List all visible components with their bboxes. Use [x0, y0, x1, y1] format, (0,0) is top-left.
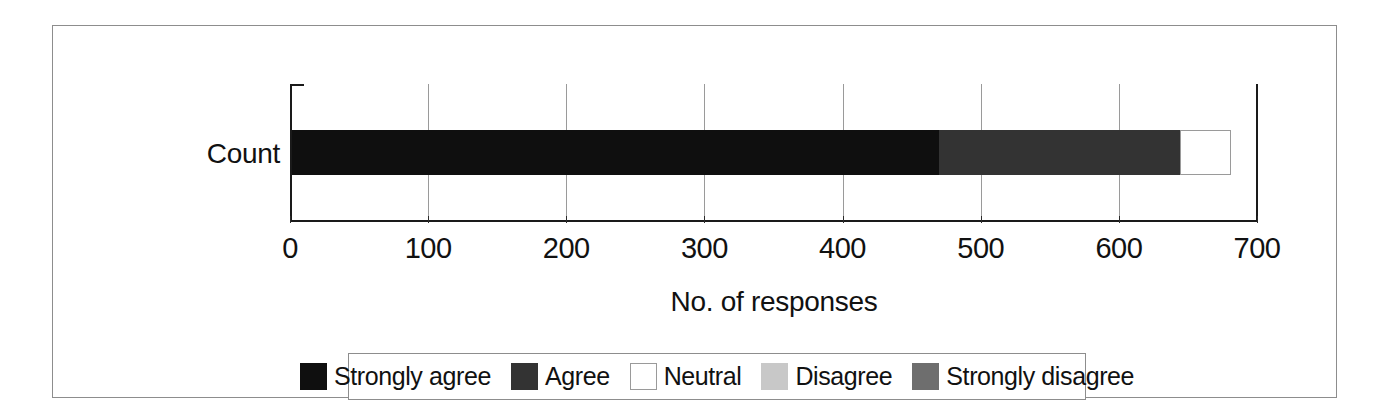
axis-top-nub	[290, 84, 304, 86]
tick-label-100: 100	[405, 231, 452, 265]
tick-mark-400	[843, 216, 844, 223]
figure-frame: 0100200300400500600700 Count No. of resp…	[52, 25, 1337, 398]
x-axis-line	[290, 220, 1258, 222]
tick-mark-300	[704, 216, 705, 223]
tick-label-600: 600	[1095, 231, 1142, 265]
tick-mark-200	[566, 216, 567, 223]
legend-item-strongly-disagree[interactable]: Strongly disagree	[912, 363, 1134, 390]
bar-segment-neutral	[1180, 130, 1231, 175]
tick-label-400: 400	[819, 231, 866, 265]
y-axis-right-spur	[1256, 84, 1258, 221]
tick-label-300: 300	[681, 231, 728, 265]
legend-label: Strongly disagree	[946, 363, 1134, 390]
legend-swatch-icon	[761, 363, 788, 390]
stacked-bar-count	[292, 130, 1231, 175]
legend: Strongly agreeAgreeNeutralDisagreeStrong…	[348, 353, 1086, 400]
tick-mark-700	[1257, 216, 1258, 223]
legend-label: Neutral	[664, 363, 742, 390]
bar-segment-strongly-agree	[292, 130, 939, 175]
legend-swatch-icon	[511, 363, 538, 390]
legend-item-neutral[interactable]: Neutral	[630, 363, 742, 390]
legend-item-disagree[interactable]: Disagree	[761, 363, 892, 390]
bar-segment-agree	[939, 130, 1181, 175]
category-label-count: Count	[53, 138, 280, 170]
x-axis-title: No. of responses	[290, 285, 1258, 319]
legend-label: Disagree	[795, 363, 892, 390]
legend-swatch-icon	[630, 363, 657, 390]
legend-swatch-icon	[300, 363, 327, 390]
tick-label-500: 500	[957, 231, 1004, 265]
tick-mark-500	[981, 216, 982, 223]
legend-swatch-icon	[912, 363, 939, 390]
legend-label: Strongly agree	[334, 363, 491, 390]
legend-item-strongly-agree[interactable]: Strongly agree	[300, 363, 491, 390]
tick-mark-100	[428, 216, 429, 223]
tick-mark-600	[1119, 216, 1120, 223]
tick-label-200: 200	[543, 231, 590, 265]
legend-item-agree[interactable]: Agree	[511, 363, 610, 390]
tick-label-700: 700	[1234, 231, 1281, 265]
tick-mark-0	[290, 216, 291, 223]
legend-label: Agree	[545, 363, 610, 390]
tick-label-0: 0	[282, 231, 298, 265]
